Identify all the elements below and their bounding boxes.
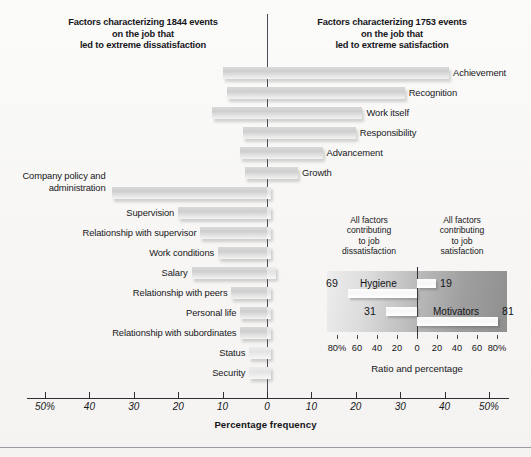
bar-satisfaction xyxy=(267,287,271,299)
bar-dissatisfaction xyxy=(112,187,267,199)
bar-dissatisfaction xyxy=(243,127,267,139)
bar-satisfaction xyxy=(267,227,271,239)
bar-row: Company policy and administration xyxy=(0,184,531,204)
bar-label: Advancement xyxy=(327,147,383,158)
bar-dissatisfaction xyxy=(231,287,267,299)
bar-row: Work itself xyxy=(0,104,531,124)
inset-axis-tick-label: 40 xyxy=(452,343,462,353)
inset-header-left-line-4: dissatisfaction xyxy=(329,246,409,256)
bar-satisfaction xyxy=(267,67,449,79)
axis-tick xyxy=(89,392,90,398)
axis-tick xyxy=(267,392,268,398)
header-left-line-1: Factors characterizing 1844 events xyxy=(27,17,259,29)
axis-tick xyxy=(400,392,401,398)
inset-header-left-line-3: to job xyxy=(329,236,409,246)
bar-satisfaction xyxy=(267,167,298,179)
bar-dissatisfaction xyxy=(240,307,267,319)
bar-dissatisfaction xyxy=(249,347,267,359)
bar-label: Personal life xyxy=(186,307,236,318)
header-right-line-2: on the job that xyxy=(276,29,508,41)
axis-tick xyxy=(356,392,357,398)
inset-axis-title: Ratio and percentage xyxy=(327,363,507,374)
inset-bar-dissatisfaction xyxy=(348,289,417,298)
bar-dissatisfaction xyxy=(240,327,267,339)
bar-label: Relationship with peers xyxy=(133,287,228,298)
bar-satisfaction xyxy=(267,147,323,159)
herzberg-two-factor-chart: Factors characterizing 1844 events on th… xyxy=(0,0,531,457)
header-left-line-3: led to extreme dissatisfaction xyxy=(27,40,259,52)
axis-tick-label: 30 xyxy=(395,401,406,412)
bar-row: Responsibility xyxy=(0,124,531,144)
inset-axis-tick xyxy=(377,335,378,339)
bar-label: Relationship with supervisor xyxy=(82,227,196,238)
inset-value-dissatisfaction: 31 xyxy=(364,305,376,317)
bar-satisfaction xyxy=(267,327,271,339)
inset-axis-tick-label: 60 xyxy=(472,343,482,353)
axis-tick-label: 20 xyxy=(350,401,361,412)
x-axis-title: Percentage frequency xyxy=(0,419,531,430)
axis-tick xyxy=(178,392,179,398)
bar-satisfaction xyxy=(267,367,271,379)
axis-tick xyxy=(489,392,490,398)
inset-row-name: Hygiene xyxy=(360,278,397,289)
inset-axis-tick-label: 0 xyxy=(414,343,419,353)
inset-bar-satisfaction xyxy=(417,279,436,288)
inset-header-right-line-4: satisfaction xyxy=(422,246,502,256)
bar-label: Salary xyxy=(162,267,188,278)
inset-header-left-line-2: contributing xyxy=(329,225,409,235)
bar-dissatisfaction xyxy=(249,367,267,379)
inset-axis-tick xyxy=(397,335,398,339)
inset-axis-tick xyxy=(417,335,418,339)
axis-tick xyxy=(45,392,46,398)
bar-satisfaction xyxy=(267,247,271,259)
header-right-line-3: led to extreme satisfaction xyxy=(276,40,508,52)
inset-axis-tick xyxy=(337,335,338,339)
inset-header-right-line-1: All factors xyxy=(422,215,502,225)
inset-axis-tick-label: 40 xyxy=(372,343,382,353)
bar-label: Status xyxy=(219,347,245,358)
inset-bar-satisfaction xyxy=(417,317,498,326)
bar-row: Advancement xyxy=(0,144,531,164)
axis-tick-label: 40 xyxy=(439,401,450,412)
inset-axis-tick-label: 20 xyxy=(432,343,442,353)
bar-satisfaction xyxy=(267,207,271,219)
bar-label: Security xyxy=(212,367,245,378)
axis-tick xyxy=(134,392,135,398)
inset-axis-tick-label: 20 xyxy=(392,343,402,353)
inset-axis-tick xyxy=(477,335,478,339)
summary-inset: All factors contributing to job dissatis… xyxy=(327,215,507,380)
inset-value-dissatisfaction: 69 xyxy=(326,277,338,289)
header-dissatisfaction: Factors characterizing 1844 events on th… xyxy=(27,17,259,52)
bar-satisfaction xyxy=(267,187,271,199)
axis-tick-label: 0 xyxy=(264,401,270,412)
bar-label: Work conditions xyxy=(149,247,214,258)
bar-row: Recognition xyxy=(0,84,531,104)
figure-bottom-rule xyxy=(0,447,531,448)
inset-axis-tick xyxy=(437,335,438,339)
inset-value-satisfaction: 19 xyxy=(440,277,452,289)
bar-dissatisfaction xyxy=(218,247,267,259)
inset-row-name: Motivators xyxy=(433,306,479,317)
bar-label: Relationship with subordinates xyxy=(112,327,236,338)
chart-plot-area: Factors characterizing 1844 events on th… xyxy=(0,0,531,457)
bar-label: Supervision xyxy=(126,207,174,218)
inset-header-right-line-2: contributing xyxy=(422,225,502,235)
bar-satisfaction xyxy=(267,347,271,359)
bar-label: Recognition xyxy=(409,87,457,98)
axis-tick-label: 40 xyxy=(84,401,95,412)
axis-tick xyxy=(311,392,312,398)
inset-bar-dissatisfaction xyxy=(386,307,417,316)
bar-dissatisfaction xyxy=(245,167,267,179)
bar-label: Company policy and administration xyxy=(20,170,106,193)
bar-dissatisfaction xyxy=(223,67,267,79)
header-left-line-2: on the job that xyxy=(27,29,259,41)
inset-axis-tick-label: 60 xyxy=(352,343,362,353)
bar-label: Achievement xyxy=(453,67,506,78)
bar-satisfaction xyxy=(267,267,276,279)
axis-tick-label: 30 xyxy=(128,401,139,412)
inset-header-right-line-3: to job xyxy=(422,236,502,246)
inset-axis-tick-label: 80% xyxy=(488,343,507,353)
inset-axis-tick xyxy=(497,335,498,339)
inset-value-satisfaction: 81 xyxy=(502,305,514,317)
inset-header-left-line-1: All factors xyxy=(329,215,409,225)
